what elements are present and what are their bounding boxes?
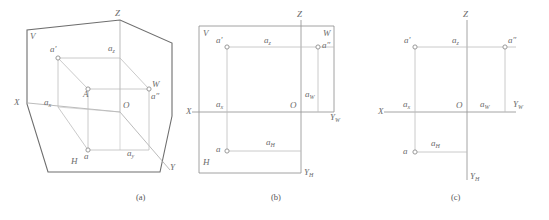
panel-c-coord-x-sub: x	[408, 104, 411, 110]
panel-a-label-coord-z: az	[108, 44, 115, 53]
panel-b-label-coord-x: ax	[216, 100, 223, 109]
panel-c-label-axis-x: X	[378, 107, 384, 116]
panel-b-axis-yh-sub: H	[309, 172, 313, 178]
panel-b-point-aw-marker	[316, 45, 320, 49]
panel-b-axis-yw-sub: W	[335, 117, 340, 123]
panel-b-label-proj-w: a″	[322, 41, 330, 50]
panel-c-label-proj-h: a	[403, 147, 408, 156]
panel-b-coord-yh-base: a	[266, 137, 271, 147]
panel-b-coord-z-sub: z	[269, 40, 271, 46]
panel-b-label-plane-v: V	[203, 29, 209, 38]
panel-a-label-proj-h: a	[84, 152, 89, 161]
panel-a-axis-y	[120, 112, 170, 170]
panel-a-label-axis-z: Z	[115, 9, 120, 18]
panel-c-label-proj-w: a″	[508, 36, 516, 45]
panel-c-coord-x-base: a	[403, 99, 408, 109]
panel-c-coord-yw-sub: W	[485, 104, 490, 110]
panel-c-label-proj-v: a'	[404, 36, 410, 45]
panel-a-coord-z-base: a	[108, 43, 113, 53]
panel-a-label-proj-v: a'	[50, 45, 56, 54]
panel-c-label-coord-yh: aH	[431, 139, 440, 148]
panel-a-label-coord-y: ay	[127, 149, 134, 158]
panel-a-coord-y-sub: y	[132, 153, 135, 159]
panel-a-coord-x-sub: x	[49, 102, 52, 108]
panel-b-label-plane-w: W	[323, 29, 331, 38]
panel-a-label-plane-v: V	[30, 32, 36, 41]
panel-b-label-coord-z: az	[264, 36, 271, 45]
panel-c-coord-yw-base: a	[480, 99, 485, 109]
panel-a-label-proj-w: a″	[151, 92, 159, 101]
panel-c-label-coord-yw: aW	[480, 100, 490, 109]
panel-b-label-axis-x: X	[186, 107, 192, 116]
panel-a-edge-ax-A	[58, 107, 120, 112]
panel-a-edge-az-aw	[120, 58, 149, 89]
panel-c-label-axis-yw: YW	[513, 100, 523, 109]
panel-a-point-av-marker	[56, 56, 60, 60]
panel-b-label-axis-yw: YW	[330, 113, 340, 122]
panel-b-label-plane-h: H	[203, 158, 210, 167]
projection-diagram-svg	[0, 0, 549, 220]
panel-b-coord-yw-base: a	[305, 89, 310, 99]
caption-b: (b)	[271, 192, 281, 202]
panel-c-coord-z-base: a	[452, 35, 457, 45]
panel-b-label-coord-yh: aH	[266, 138, 275, 147]
panel-b-coord-z-base: a	[264, 35, 269, 45]
panel-a-label-axis-y: Y	[170, 163, 175, 172]
panel-c-coord-yh-base: a	[431, 138, 436, 148]
panel-a-edge-av-A	[58, 58, 88, 89]
panel-c-axis-yh-sub: H	[475, 176, 479, 182]
panel-c-label-axis-yh: YH	[470, 172, 479, 181]
panel-c-point-av-marker	[413, 45, 417, 49]
panel-c-label-coord-z: az	[452, 36, 459, 45]
panel-b-coord-x-sub: x	[221, 104, 224, 110]
panel-c-coord-yh-sub: H	[436, 143, 440, 149]
panel-a-label-coord-x: ax	[44, 98, 51, 107]
caption-c: (c)	[451, 192, 460, 202]
panel-b-coord-yh-sub: H	[271, 142, 275, 148]
panel-b-label-axis-yh: YH	[304, 168, 313, 177]
panel-a-coord-z-sub: z	[113, 48, 115, 54]
panel-b-label-proj-v: a'	[216, 36, 222, 45]
figure-canvas: V H W Z X Y O a' A a″ a ax ay az V H W Z…	[0, 0, 549, 220]
panel-a-label-point-a: A	[83, 90, 89, 99]
panel-a-edge-ax-ah	[58, 107, 88, 150]
panel-b-label-proj-h: a	[216, 145, 221, 154]
caption-a: (a)	[136, 192, 145, 202]
panel-b-point-av-marker	[225, 45, 229, 49]
panel-c-label-coord-x: ax	[403, 100, 410, 109]
panel-b-label-origin: O	[290, 101, 297, 110]
panel-a-label-axis-x: X	[14, 98, 20, 107]
panel-c-label-axis-z: Z	[463, 10, 468, 19]
panel-a-coord-y-base: a	[127, 148, 132, 158]
panel-c-axis-yw-sub: W	[518, 104, 523, 110]
panel-c-label-origin: O	[456, 101, 463, 110]
panel-b-point-ah-marker	[225, 149, 229, 153]
panel-b-label-coord-yw: aW	[305, 90, 315, 99]
panel-a-coord-x-base: a	[44, 97, 49, 107]
panel-a-label-plane-w: W	[152, 80, 160, 89]
panel-a-label-origin: O	[123, 101, 130, 110]
panel-c-coord-z-sub: z	[457, 40, 459, 46]
panel-a-label-plane-h: H	[71, 157, 78, 166]
panel-c-point-aw-marker	[503, 45, 507, 49]
panel-b-coord-x-base: a	[216, 99, 221, 109]
panel-c-point-ah-marker	[413, 150, 417, 154]
panel-b-coord-yw-sub: W	[310, 94, 315, 100]
panel-b-label-axis-z: Z	[297, 10, 302, 19]
